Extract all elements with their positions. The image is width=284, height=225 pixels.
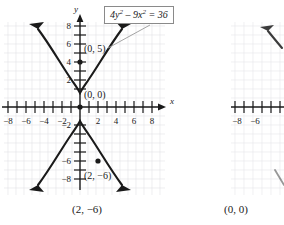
- x-tick-label: −8: [232, 116, 242, 126]
- graph-svg-right: −8 −6: [225, 0, 284, 199]
- x-tick-label: 4: [114, 116, 119, 126]
- equation-text: 4y2 – 9x2 = 36: [110, 9, 168, 20]
- x-tick-label: −8: [3, 116, 13, 126]
- answer-choices-row: (2, −6) (0, 0): [0, 199, 284, 225]
- y-axis-letter: y: [73, 4, 78, 14]
- point-label-2-n6: (2, −6): [84, 170, 111, 182]
- graph-panel-left: −8 −6 −4 −2 2 4 6 8 8 6 4 2 −2 −6 −8 x: [0, 0, 200, 225]
- equation-callout: 4y2 – 9x2 = 36: [104, 6, 174, 24]
- x-tick-label: 6: [132, 116, 137, 126]
- x-tick-label: 8: [150, 116, 155, 126]
- x-axis-letter: x: [169, 96, 174, 106]
- graph-panel-right: −8 −6: [225, 0, 284, 225]
- x-tick-labels-right: −8 −6: [232, 116, 260, 126]
- plotted-point-0-0: [77, 104, 82, 109]
- plotted-point-0-5: [77, 59, 82, 64]
- y-tick-label: 8: [67, 21, 72, 31]
- x-tick-label: −6: [21, 116, 31, 126]
- y-tick-label: 4: [67, 57, 72, 67]
- y-tick-labels: 8 6 4 2 −2 −6 −8: [61, 21, 71, 184]
- x-axis: [2, 101, 166, 113]
- answer-choice-left[interactable]: (2, −6): [72, 203, 102, 215]
- coordinate-plane-right: −8 −6: [225, 0, 284, 199]
- y-tick-label: 6: [67, 39, 72, 49]
- x-tick-label: 2: [96, 116, 101, 126]
- x-axis-right: [231, 101, 284, 113]
- grid-lines-right: [231, 22, 284, 195]
- point-label-0-0: (0, 0): [84, 89, 106, 101]
- y-tick-label: −2: [61, 120, 71, 130]
- hyperbola-partial-lower-right: [275, 170, 284, 185]
- answer-choice-right[interactable]: (0, 0): [224, 203, 248, 215]
- y-tick-label: −6: [61, 156, 71, 166]
- y-tick-label: −8: [61, 174, 71, 184]
- graph-svg-left: −8 −6 −4 −2 2 4 6 8 8 6 4 2 −2 −6 −8 x: [0, 0, 200, 199]
- y-axis: [74, 14, 86, 190]
- coordinate-plane-left: −8 −6 −4 −2 2 4 6 8 8 6 4 2 −2 −6 −8 x: [0, 0, 200, 199]
- x-tick-label: −4: [39, 116, 49, 126]
- plotted-point-2-n6: [95, 158, 100, 163]
- x-tick-label: −6: [250, 116, 260, 126]
- point-label-0-5: (0, 5): [84, 43, 106, 55]
